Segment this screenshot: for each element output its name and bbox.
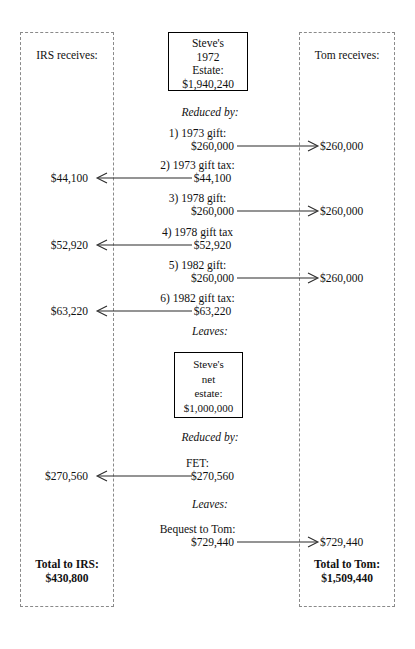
flow-arrows-layer [0,0,415,649]
arrow-to-tom-1 [237,141,318,151]
arrow-to-tom-3 [237,206,318,216]
arrow-to-tom-5 [237,273,318,283]
arrow-to-irs-6 [97,306,192,316]
estate-flow-diagram: IRS receives: Total to IRS: $430,800 Tom… [0,0,415,649]
arrow-to-tom-bequest [237,537,318,547]
arrow-to-irs-4 [97,240,192,250]
arrow-to-irs-fet [97,471,192,481]
arrow-to-irs-2 [97,173,192,183]
